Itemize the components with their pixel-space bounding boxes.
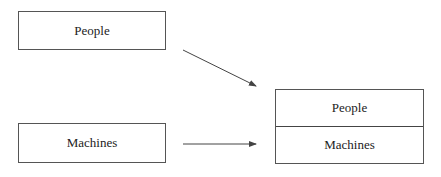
diagonal-arrow	[183, 50, 256, 86]
arrows-layer	[0, 0, 441, 177]
